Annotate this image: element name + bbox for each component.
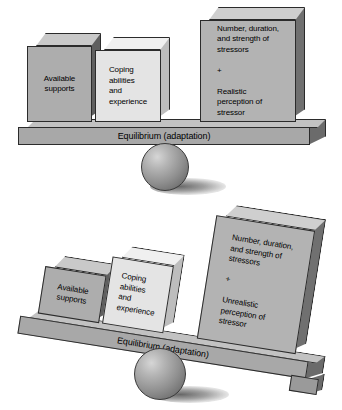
- beam-balanced: Equilibrium (adaptation): [18, 119, 326, 145]
- sphere-fulcrum: [141, 143, 189, 191]
- sphere-fulcrum: [134, 348, 186, 400]
- block-coping-abilities: Coping abilities and experience: [102, 256, 174, 333]
- block-label: Available supports: [41, 74, 78, 95]
- block-front-face: Number, duration, and strength of stress…: [200, 20, 296, 122]
- block-top-face: [209, 7, 305, 20]
- panel-balanced: Available supports Coping abilities and …: [0, 0, 342, 205]
- block-front-face: [289, 375, 319, 395]
- block-label: Coping abilities and experience: [113, 271, 163, 319]
- block-top-face: [104, 37, 170, 50]
- block-front-face: Number, duration, and strength of stress…: [197, 215, 315, 354]
- block-top-face: [36, 33, 101, 46]
- block-label: Coping abilities and experience: [106, 65, 150, 107]
- block-available-supports: Available supports: [27, 46, 92, 122]
- block-label: Available supports: [52, 281, 92, 308]
- block-front-face: Coping abilities and experience: [95, 50, 161, 122]
- block-front-face: Coping abilities and experience: [102, 256, 174, 333]
- block-available-supports: Available supports: [38, 266, 107, 323]
- block-front-face: Available supports: [27, 46, 92, 122]
- equilibrium-adaptation-figure: Available supports Coping abilities and …: [0, 0, 342, 410]
- beam-caption: Equilibrium (adaptation): [118, 131, 211, 141]
- block-label: Number, duration, and strength of stress…: [214, 24, 282, 119]
- block-stressors-realistic: Number, duration, and strength of stress…: [200, 20, 296, 122]
- beam-right-support: [289, 375, 319, 395]
- block-front-face: Available supports: [38, 266, 107, 323]
- block-stressors-unrealistic: Number, duration, and strength of stress…: [197, 215, 315, 354]
- block-label: Number, duration, and strength of stress…: [215, 233, 297, 337]
- panel-imbalanced: Available supports Coping abilities and …: [0, 205, 342, 410]
- block-coping-abilities: Coping abilities and experience: [95, 50, 161, 122]
